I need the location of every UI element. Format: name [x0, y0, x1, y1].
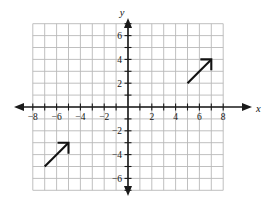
- x-tick-label: 4: [173, 112, 178, 122]
- y-axis-top-arrowhead: [124, 18, 132, 28]
- x-axis-right-arrowhead: [242, 103, 252, 111]
- x-tick-label: 2: [149, 112, 154, 122]
- x-axis-left-arrowhead: [14, 103, 24, 111]
- coordinate-plane-figure: −8−6−4−22468 642−2−4−6 x y: [0, 0, 271, 212]
- y-axis-label: y: [119, 7, 125, 18]
- x-axis-tick-labels: −8−6−4−22468: [28, 112, 226, 122]
- x-axis: [14, 103, 252, 111]
- x-tick-label: −8: [28, 112, 38, 122]
- x-tick-label: −2: [99, 112, 109, 122]
- y-axis-bottom-arrowhead: [124, 186, 132, 196]
- y-tick-label: −6: [112, 174, 122, 184]
- coordinate-plane-svg: −8−6−4−22468 642−2−4−6 x y: [0, 0, 271, 212]
- y-tick-label: −2: [112, 126, 122, 136]
- y-tick-label: −4: [112, 150, 122, 160]
- x-tick-label: 6: [197, 112, 202, 122]
- x-tick-label: −4: [75, 112, 85, 122]
- x-tick-label: −6: [52, 112, 62, 122]
- y-tick-label: 6: [117, 31, 122, 41]
- x-axis-label: x: [255, 103, 261, 114]
- x-tick-label: 8: [221, 112, 226, 122]
- y-tick-label: 2: [117, 79, 122, 89]
- y-tick-label: 4: [117, 55, 122, 65]
